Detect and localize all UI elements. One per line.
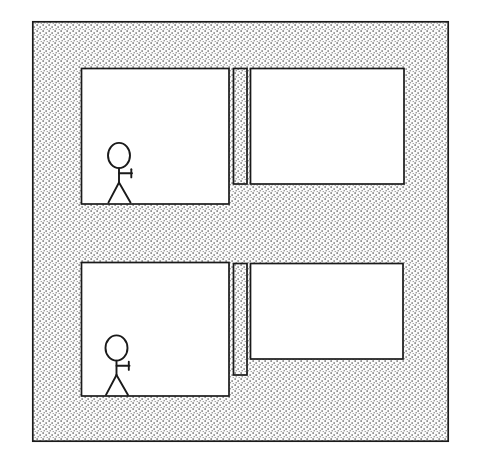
room-top-left — [82, 69, 230, 205]
room-group-top — [82, 69, 405, 205]
room-bottom-left — [82, 263, 230, 397]
divider-wall-top — [234, 69, 248, 185]
room-top-right — [251, 69, 405, 185]
room-bottom-right — [251, 264, 404, 360]
divider-wall-bottom — [234, 264, 248, 376]
floorplan-canvas — [0, 0, 477, 471]
floorplan-diagram — [0, 0, 477, 471]
